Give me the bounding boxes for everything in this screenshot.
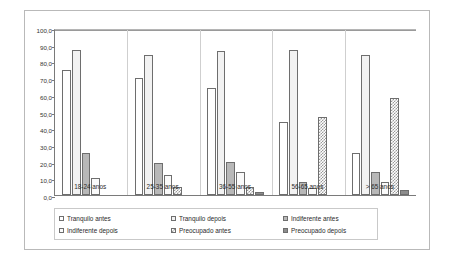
y-tick-label: 80,0 (22, 60, 52, 67)
legend-item[interactable]: Preocupado antes (171, 227, 283, 234)
y-tick-label: 100,0 (22, 27, 52, 34)
legend-label: Preocupado antes (179, 227, 231, 234)
legend-item[interactable]: Tranquilo antes (59, 215, 171, 222)
x-axis-category-label: 56-65 anos (291, 183, 323, 190)
chart-legend: Tranquilo antesTranquilo depoisIndiferen… (54, 208, 378, 240)
x-axis-category-label: 25-35 anos (147, 183, 179, 190)
legend-swatch-icon (283, 228, 288, 233)
legend-label: Tranquilo depois (179, 215, 226, 222)
y-tick-label: 10,0 (22, 177, 52, 184)
legend-item[interactable]: Indiferente antes (283, 215, 379, 222)
bar-group (279, 30, 337, 195)
bar (352, 153, 361, 195)
bar (400, 190, 409, 195)
legend-swatch-icon (283, 216, 288, 221)
legend-swatch-icon (59, 228, 64, 233)
bar (289, 50, 298, 195)
bar (72, 50, 81, 195)
legend-label: Indiferente antes (291, 215, 339, 222)
bar (361, 55, 370, 195)
bar (217, 51, 226, 195)
legend-item[interactable]: Indiferente depois (59, 227, 171, 234)
bar (279, 122, 288, 195)
bar (154, 163, 163, 195)
legend-label: Tranquilo antes (67, 215, 111, 222)
y-tick-mark (52, 197, 55, 198)
bar (207, 88, 216, 195)
bar-group (352, 30, 410, 195)
y-tick-label: 60,0 (22, 93, 52, 100)
x-axis-category-label: 18-24 anos (74, 183, 106, 190)
y-tick-label: 70,0 (22, 77, 52, 84)
plot-area: 0,010,020,030,040,050,060,070,080,090,01… (54, 29, 416, 196)
legend-label: Preocupado depois (291, 227, 346, 234)
y-tick-label: 0,0 (22, 194, 52, 201)
bar (62, 70, 71, 195)
legend-swatch-icon (59, 216, 64, 221)
x-axis-category-label: > 65 anos (366, 183, 394, 190)
chart-frame: 0,010,020,030,040,050,060,070,080,090,01… (24, 10, 430, 250)
y-tick-label: 90,0 (22, 43, 52, 50)
bar-group (135, 30, 193, 195)
y-tick-label: 40,0 (22, 127, 52, 134)
bar-group (62, 30, 120, 195)
x-axis-category-label: 36-55 anos (219, 183, 251, 190)
bar-series-container (55, 30, 416, 195)
bar (390, 98, 399, 195)
legend-swatch-icon (171, 228, 176, 233)
bar (135, 78, 144, 195)
y-tick-label: 50,0 (22, 110, 52, 117)
bar (255, 192, 264, 195)
legend-item[interactable]: Tranquilo depois (171, 215, 283, 222)
legend-label: Indiferente depois (67, 227, 118, 234)
legend-swatch-icon (171, 216, 176, 221)
bar-group (207, 30, 265, 195)
legend-item[interactable]: Preocupado depois (283, 227, 379, 234)
y-tick-label: 20,0 (22, 160, 52, 167)
bar (144, 55, 153, 195)
y-tick-label: 30,0 (22, 143, 52, 150)
